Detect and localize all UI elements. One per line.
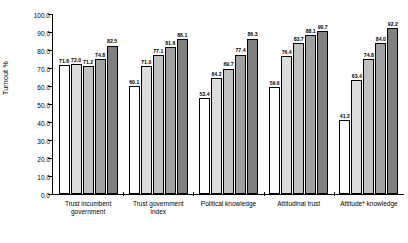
bar-item: 59.6: [269, 14, 280, 194]
bar-item: 60.1: [129, 14, 140, 194]
bar: [387, 28, 398, 194]
bar-item: 81.6: [165, 14, 176, 194]
x-category-label-line: Attitude* knowledge: [327, 200, 408, 208]
bar: [375, 43, 386, 194]
bar: [95, 59, 106, 194]
bar-item: 71.2: [83, 14, 94, 194]
bar: [293, 43, 304, 194]
y-tick-mark: [48, 158, 52, 159]
x-group-separator: [334, 192, 335, 196]
bar: [83, 66, 94, 194]
bar-item: 77.1: [153, 14, 164, 194]
bar-group: 60.171.077.181.686.1: [123, 14, 193, 194]
y-tick-mark: [48, 68, 52, 69]
y-tick-mark: [48, 104, 52, 105]
bar-value-label: 41.2: [340, 114, 350, 119]
bar-value-label: 72.0: [71, 58, 81, 63]
bar-value-label: 77.1: [153, 49, 163, 54]
bar: [59, 65, 70, 194]
y-axis-label: Turnout %: [2, 35, 9, 95]
bar-value-label: 84.0: [376, 37, 386, 42]
bar-item: 69.7: [223, 14, 234, 194]
bar-item: 72.0: [71, 14, 82, 194]
x-category-label-line: index: [116, 208, 200, 216]
bar: [199, 98, 210, 194]
y-tick-mark: [48, 176, 52, 177]
bar-value-label: 86.3: [247, 32, 257, 37]
bar: [305, 35, 316, 194]
bar-value-label: 74.8: [95, 53, 105, 58]
y-axis-tick-labels: 100.090.080.070.060.050.040.030.020.010.…: [14, 16, 50, 192]
bar-item: 88.1: [305, 14, 316, 194]
bar-item: 71.0: [141, 14, 152, 194]
bar-group: 59.676.483.788.190.7: [264, 14, 334, 194]
bar-item: 71.6: [59, 14, 70, 194]
bar-value-label: 81.6: [165, 41, 175, 46]
bar: [235, 55, 246, 194]
bar: [247, 39, 258, 194]
bar-value-label: 60.1: [129, 80, 139, 85]
bar-item: 53.4: [199, 14, 210, 194]
bar-item: 86.1: [177, 14, 188, 194]
bar-value-label: 82.5: [107, 39, 117, 44]
x-group-separator: [264, 192, 265, 196]
bar: [177, 39, 188, 194]
bar-value-label: 88.1: [306, 29, 316, 34]
bar: [141, 66, 152, 194]
bar-value-label: 71.6: [59, 59, 69, 64]
bar: [223, 69, 234, 194]
bar-value-label: 53.4: [199, 92, 209, 97]
bar-value-label: 76.4: [282, 50, 292, 55]
bar: [153, 55, 164, 194]
bar-value-label: 71.2: [83, 60, 93, 65]
bar-value-label: 83.7: [294, 37, 304, 42]
bar-value-label: 69.7: [223, 62, 233, 67]
y-tick-mark: [48, 32, 52, 33]
bar-value-label: 92.2: [388, 22, 398, 27]
bar: [129, 86, 140, 194]
bar: [317, 31, 328, 194]
y-tick-mark: [48, 140, 52, 141]
y-tick-mark: [48, 122, 52, 123]
bar: [351, 80, 362, 194]
bar-value-label: 64.2: [211, 72, 221, 77]
y-tick-mark: [48, 194, 52, 195]
plot-area: 71.672.071.274.882.560.171.077.181.686.1…: [53, 14, 404, 194]
bar: [281, 56, 292, 194]
bar-value-label: 63.4: [352, 74, 362, 79]
bar-item: 76.4: [281, 14, 292, 194]
y-tick-mark: [48, 50, 52, 51]
bar-value-label: 86.1: [177, 33, 187, 38]
bar-item: 74.8: [95, 14, 106, 194]
bar: [269, 87, 280, 194]
bar-item: 77.4: [235, 14, 246, 194]
x-axis-line: [52, 194, 404, 195]
bar-value-label: 59.6: [270, 81, 280, 86]
bar-item: 64.2: [211, 14, 222, 194]
bar-group: 41.263.474.884.092.2: [334, 14, 404, 194]
x-group-separator: [193, 192, 194, 196]
bar-item: 41.2: [339, 14, 350, 194]
bar-group: 53.464.269.777.486.3: [193, 14, 263, 194]
bar-value-label: 74.8: [364, 53, 374, 58]
bar-item: 92.2: [387, 14, 398, 194]
x-group-separator: [123, 192, 124, 196]
bar-value-label: 71.0: [141, 60, 151, 65]
bar: [71, 64, 82, 194]
bar-value-label: 90.7: [318, 25, 328, 30]
bar-item: 86.3: [247, 14, 258, 194]
bar: [339, 120, 350, 194]
bar-value-label: 77.4: [235, 48, 245, 53]
bar-item: 84.0: [375, 14, 386, 194]
bar: [363, 59, 374, 194]
bar-item: 63.4: [351, 14, 362, 194]
y-tick-mark: [48, 86, 52, 87]
bar-item: 74.8: [363, 14, 374, 194]
bar-item: 90.7: [317, 14, 328, 194]
bar: [165, 47, 176, 194]
bar-item: 83.7: [293, 14, 304, 194]
bar-item: 82.5: [107, 14, 118, 194]
bar: [211, 78, 222, 194]
bar-chart: Turnout % 100.090.080.070.060.050.040.03…: [0, 0, 408, 243]
x-category-label: Attitude* knowledge: [327, 200, 408, 208]
